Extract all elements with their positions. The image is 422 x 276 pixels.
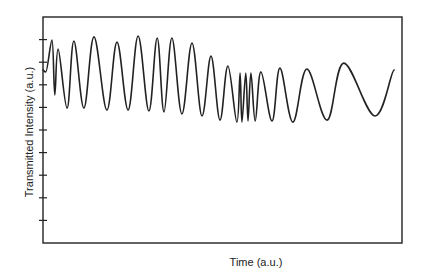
chart: Transmitted Intensity (a.u.) Time (a.u.) xyxy=(0,0,422,276)
x-axis-label: Time (a.u.) xyxy=(230,256,283,268)
y-axis-label: Transmitted Intensity (a.u.) xyxy=(23,67,35,197)
intensity-line xyxy=(43,36,394,122)
